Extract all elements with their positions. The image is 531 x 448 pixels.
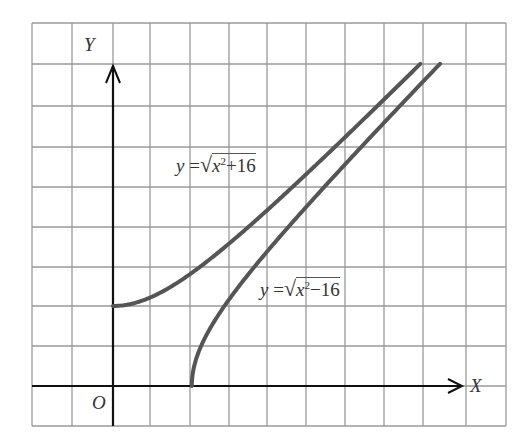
axes <box>32 66 462 426</box>
label-num: 16 <box>321 279 340 300</box>
curve-label-plus: y =√x2+16 <box>176 152 256 178</box>
label-lhs: y <box>176 155 184 176</box>
label-op: + <box>226 155 237 176</box>
sqrt-icon: √ <box>284 276 296 301</box>
curve-label-minus: y =√x2−16 <box>260 276 340 302</box>
x-axis-label: X <box>470 375 482 397</box>
grid-lines <box>32 23 506 426</box>
label-num: 16 <box>237 155 256 176</box>
label-lhs: y <box>260 279 268 300</box>
label-eq: = <box>273 279 284 300</box>
sqrt-icon: √ <box>200 152 212 177</box>
label-eq: = <box>189 155 200 176</box>
label-op: − <box>310 279 321 300</box>
y-axis-label: Y <box>84 34 95 56</box>
graph-canvas <box>0 0 531 448</box>
origin-label: O <box>92 392 106 414</box>
